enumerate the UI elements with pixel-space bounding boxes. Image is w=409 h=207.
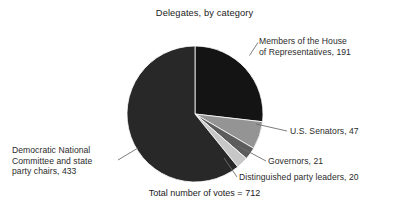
- slice-label-house-line1: Members of the House: [259, 36, 351, 47]
- slice-label-house: Members of the House of Representatives,…: [259, 36, 351, 57]
- pie-chart-figure: Delegates, by category Members of the Ho…: [0, 0, 409, 207]
- leader-line-dnc: [118, 148, 138, 160]
- slice-label-senators: U.S. Senators, 47: [290, 126, 359, 137]
- slice-label-distinguished-party-leaders: Distinguished party leaders, 20: [239, 172, 359, 183]
- slice-label-dnc-line1: Democratic National: [12, 145, 92, 156]
- slice-label-governors: Governors, 21: [268, 156, 323, 167]
- chart-footer-total: Total number of votes = 712: [0, 188, 409, 198]
- pie-slice-group: [127, 46, 263, 182]
- leader-line-house: [250, 43, 259, 56]
- pie-slice-house: [195, 46, 263, 122]
- slice-label-dnc: Democratic National Committee and state …: [12, 145, 92, 177]
- slice-label-dnc-line3: party chairs, 433: [12, 166, 92, 177]
- slice-label-house-line2: of Representatives, 191: [259, 47, 351, 58]
- slice-label-dnc-line2: Committee and state: [12, 156, 92, 167]
